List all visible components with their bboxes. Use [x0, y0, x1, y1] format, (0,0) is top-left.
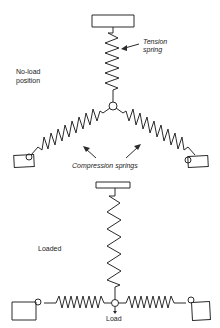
- top-pivot: [109, 102, 117, 110]
- top-tension-spring: [105, 27, 119, 98]
- no-load-label-line2: position: [16, 77, 40, 85]
- bottom-ceiling-block: [96, 182, 130, 188]
- top-ceiling-block: [92, 15, 134, 27]
- top-right-compression-spring: [116, 108, 195, 155]
- bottom-right-anchor-block: [192, 302, 211, 321]
- no-load-label-line1: No-load: [16, 68, 41, 76]
- bottom-tension-spring: [107, 188, 121, 300]
- tension-spring-label-line1: Tension: [143, 38, 167, 46]
- tension-spring-label-line2: spring: [143, 46, 162, 54]
- bottom-load-pivot: [112, 300, 119, 307]
- bottom-left-anchor-block: [12, 302, 36, 320]
- load-label: Load: [106, 315, 122, 323]
- top-left-compression-spring: [31, 108, 110, 155]
- compression-springs-label: Compression springs: [72, 162, 138, 170]
- loaded-label: Loaded: [38, 245, 61, 253]
- bottom-left-compression-spring: [44, 296, 111, 308]
- bottom-right-compression-spring: [119, 296, 186, 308]
